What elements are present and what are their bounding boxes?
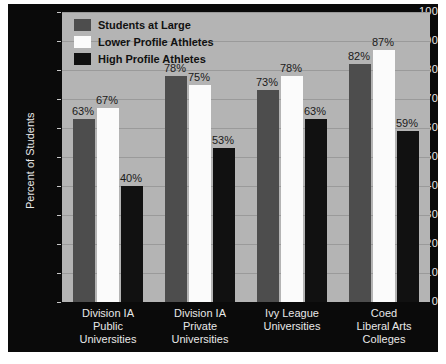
y-tick-mark	[57, 70, 61, 71]
y-tick-mark	[57, 12, 61, 13]
bar-value-label: 63%	[72, 106, 94, 117]
bar	[281, 76, 303, 302]
y-tick-mark	[57, 41, 61, 42]
bar	[165, 76, 187, 302]
bar	[373, 50, 395, 302]
chart-canvas: Percent of Students 10090807060504030201…	[8, 4, 438, 352]
y-tick-mark	[57, 302, 61, 303]
legend-label-students-at-large: Students at Large	[98, 19, 191, 31]
y-tick-mark	[57, 128, 61, 129]
y-tick-mark	[57, 273, 61, 274]
legend-label-high-profile-athletes: High Profile Athletes	[98, 53, 206, 65]
bar	[189, 85, 211, 303]
x-group-label: Coed Liberal Arts Colleges	[338, 307, 430, 346]
gridline	[62, 12, 430, 13]
x-group-label: Division IA Public Universities	[62, 307, 154, 346]
legend-item-lower-profile-athletes: Lower Profile Athletes	[74, 35, 214, 49]
bar	[121, 186, 143, 302]
legend-swatch-lower-profile-athletes	[74, 36, 91, 48]
legend-swatch-high-profile-athletes	[74, 53, 91, 65]
plot-area: 63%67%40%78%75%53%73%78%63%82%87%59% Stu…	[62, 12, 430, 302]
bar	[213, 148, 235, 302]
legend-label-lower-profile-athletes: Lower Profile Athletes	[98, 36, 214, 48]
chart-figure: Percent of Students 10090807060504030201…	[0, 0, 446, 364]
bar	[97, 108, 119, 302]
bar-value-label: 40%	[120, 173, 142, 184]
legend-swatch-students-at-large	[74, 19, 91, 31]
bar-value-label: 75%	[188, 72, 210, 83]
bar	[305, 119, 327, 302]
bar	[397, 131, 419, 302]
bar	[73, 119, 95, 302]
chart-legend: Students at Large Lower Profile Athletes…	[74, 18, 214, 66]
x-group-label: Ivy League Universities	[246, 307, 338, 333]
legend-item-students-at-large: Students at Large	[74, 18, 214, 32]
bar-value-label: 59%	[396, 118, 418, 129]
y-tick-mark	[57, 157, 61, 158]
bar-value-label: 82%	[348, 51, 370, 62]
bar	[349, 64, 371, 302]
bar-value-label: 63%	[304, 106, 326, 117]
x-group-label: Division IA Private Universities	[154, 307, 246, 346]
y-tick-mark	[57, 215, 61, 216]
bar	[257, 90, 279, 302]
y-tick-mark	[57, 186, 61, 187]
bar-value-label: 78%	[280, 63, 302, 74]
bar-value-label: 73%	[256, 77, 278, 88]
legend-item-high-profile-athletes: High Profile Athletes	[74, 52, 214, 66]
y-axis-title: Percent of Students	[24, 112, 36, 209]
bar-value-label: 53%	[212, 135, 234, 146]
bar-value-label: 87%	[372, 37, 394, 48]
y-tick-mark	[57, 99, 61, 100]
y-tick-mark	[57, 244, 61, 245]
bar-value-label: 67%	[96, 95, 118, 106]
